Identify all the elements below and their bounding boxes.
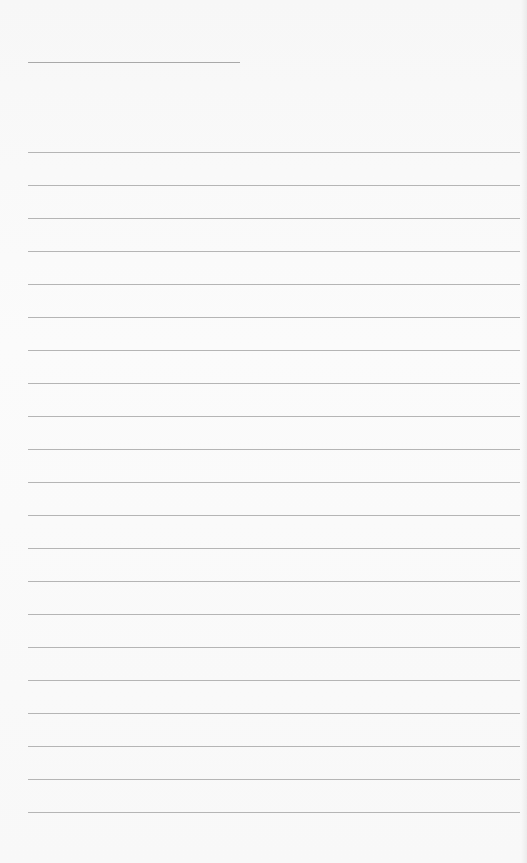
ruled-line bbox=[28, 284, 520, 285]
ruled-line bbox=[28, 350, 520, 351]
ruled-line bbox=[28, 185, 520, 186]
ruled-line bbox=[28, 416, 520, 417]
page-edge-shadow bbox=[521, 0, 527, 863]
ruled-line bbox=[28, 779, 520, 780]
ruled-line bbox=[28, 581, 520, 582]
ruled-line bbox=[28, 812, 520, 813]
ruled-line bbox=[28, 482, 520, 483]
ruled-line bbox=[28, 614, 520, 615]
ruled-line bbox=[28, 251, 520, 252]
ruled-line bbox=[28, 383, 520, 384]
header-rule bbox=[28, 62, 240, 63]
ruled-line bbox=[28, 647, 520, 648]
ruled-line bbox=[28, 152, 520, 153]
lined-paper-page bbox=[0, 0, 527, 863]
ruled-line bbox=[28, 713, 520, 714]
ruled-line bbox=[28, 449, 520, 450]
ruled-line bbox=[28, 680, 520, 681]
ruled-line bbox=[28, 515, 520, 516]
ruled-line bbox=[28, 746, 520, 747]
ruled-line bbox=[28, 317, 520, 318]
ruled-line bbox=[28, 218, 520, 219]
ruled-line bbox=[28, 548, 520, 549]
